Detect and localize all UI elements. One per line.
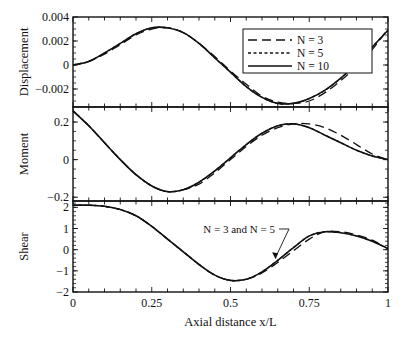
x-tick-label: 1 [385, 296, 391, 310]
y-tick-label: 0.004 [42, 10, 69, 24]
series-line [73, 111, 388, 192]
y-axis-label: Moment [17, 132, 31, 175]
figure: 0.0040.0020−0.002Displacement0.20−0.2Mom… [0, 0, 405, 340]
panel-moment: 0.20−0.2Moment [17, 107, 388, 204]
y-tick-label: 2 [63, 200, 69, 214]
y-tick-label: 0 [63, 243, 69, 257]
y-tick-label: 1 [63, 222, 69, 236]
x-axis-label: Axial distance x/L [184, 315, 276, 329]
y-tick-label: 0 [63, 153, 69, 167]
x-axis: 00.250.50.751Axial distance x/L [70, 296, 391, 329]
x-tick-label: 0.75 [299, 296, 320, 310]
panel-shear: 210−1−2Shear [17, 200, 388, 299]
y-axis-label: Displacement [17, 27, 31, 96]
y-tick-label: 0.002 [42, 34, 69, 48]
legend-label: N = 3 [297, 34, 324, 46]
y-tick-label: 0.2 [54, 115, 69, 129]
series-line [73, 205, 388, 281]
y-tick-label: 0 [63, 58, 69, 72]
legend: N = 3N = 5N = 10 [243, 29, 372, 73]
series-line [73, 205, 388, 281]
y-tick-label: −2 [56, 285, 69, 299]
x-tick-label: 0.25 [141, 296, 162, 310]
series-line [73, 111, 388, 192]
plot-frame [73, 107, 388, 201]
legend-label: N = 5 [297, 47, 324, 59]
series-line [73, 205, 388, 281]
y-tick-label: −1 [56, 264, 69, 278]
plot-frame [73, 201, 388, 292]
shear-annotation: N = 3 and N = 5 [203, 223, 289, 259]
x-tick-label: 0 [70, 296, 76, 310]
series-line [73, 111, 388, 192]
y-tick-label: −0.002 [35, 82, 69, 96]
legend-label: N = 10 [297, 60, 329, 72]
y-axis-label: Shear [17, 231, 31, 260]
x-tick-label: 0.5 [223, 296, 238, 310]
svg-text:N = 3 and N = 5: N = 3 and N = 5 [203, 223, 275, 235]
